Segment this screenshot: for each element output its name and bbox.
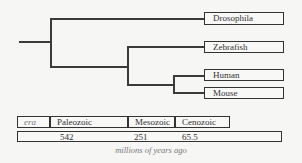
era-row: era Paleozoic Mesozoic Cenozoic (17, 116, 230, 128)
leaf-drosophila: Drosophila (204, 12, 284, 25)
node-1-vertical (50, 18, 52, 68)
era-mesozoic: Mesozoic (129, 117, 170, 127)
age-cenozoic: 65.5 (176, 132, 198, 141)
branch-human (173, 75, 205, 77)
branch-node-2 (50, 66, 128, 68)
root-branch (19, 41, 51, 43)
branch-node-3 (127, 84, 174, 86)
leaf-zebrafish: Zebrafish (204, 41, 284, 53)
branch-zebrafish (127, 46, 205, 48)
axis-caption: millions of years ago (0, 145, 302, 155)
node-3-vertical (173, 75, 175, 94)
branch-mouse (173, 92, 205, 94)
leaf-label: Drosophila (213, 14, 253, 23)
era-paleozoic: Paleozoic (51, 117, 92, 127)
leaf-label: Zebrafish (213, 43, 247, 52)
age-row: 542 251 65.5 (17, 131, 282, 142)
branch-drosophila (50, 18, 205, 20)
era-label: era (18, 117, 50, 127)
leaf-human: Human (204, 69, 284, 81)
leaf-mouse: Mouse (204, 87, 284, 99)
era-cenozoic: Cenozoic (176, 117, 216, 127)
node-2-vertical (127, 46, 129, 86)
leaf-label: Mouse (213, 89, 238, 98)
age-paleozoic: 542 (54, 132, 74, 141)
age-mesozoic: 251 (128, 132, 148, 141)
leaf-label: Human (213, 71, 240, 80)
